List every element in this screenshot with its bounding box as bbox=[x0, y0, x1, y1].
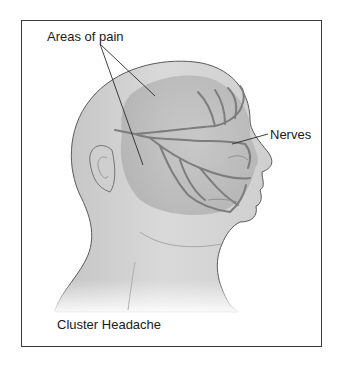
figure-caption: Cluster Headache bbox=[57, 318, 161, 331]
head-illustration bbox=[0, 0, 340, 366]
areas-of-pain-label: Areas of pain bbox=[47, 30, 124, 43]
nerves-label: Nerves bbox=[270, 128, 311, 141]
